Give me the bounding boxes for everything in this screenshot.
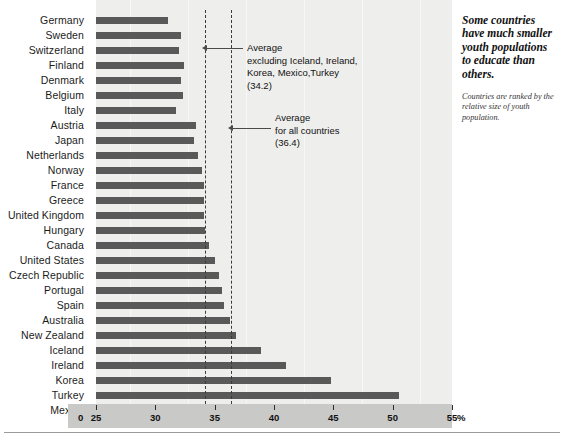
bar-row-label: United Kingdom xyxy=(0,208,84,223)
bar xyxy=(96,287,222,294)
bar xyxy=(96,152,198,159)
callout-average-excluding: Average excluding Iceland, Ireland, Kore… xyxy=(247,42,397,92)
bar xyxy=(96,62,184,69)
bar xyxy=(96,137,194,144)
bar-row-label: Denmark xyxy=(0,73,84,88)
bar-row: Germany xyxy=(0,13,452,28)
x-axis-tick xyxy=(274,405,275,410)
average-line-excluding xyxy=(205,10,206,404)
bar-row-label: Czech Republic xyxy=(0,268,84,283)
bar-row-label: France xyxy=(0,178,84,193)
bar-row-label: Japan xyxy=(0,133,84,148)
bar-row: Sweden xyxy=(0,28,452,43)
x-axis-tick-label: 35 xyxy=(209,412,220,423)
x-axis-tick-label: 50 xyxy=(387,412,398,423)
bar-row-label: Spain xyxy=(0,298,84,313)
bar-row-label: Switzerland xyxy=(0,43,84,58)
bar-row: United Kingdom xyxy=(0,208,452,223)
bar xyxy=(96,272,219,279)
bar-row: New Zealand xyxy=(0,328,452,343)
bar-row-label: Sweden xyxy=(0,28,84,43)
bar-row-label: New Zealand xyxy=(0,328,84,343)
bar-row: Czech Republic xyxy=(0,268,452,283)
x-axis-tick xyxy=(215,405,216,410)
bar xyxy=(96,107,176,114)
bar-row: Netherlands xyxy=(0,148,452,163)
callout-leader-excluding xyxy=(207,48,243,49)
bar-row-label: Norway xyxy=(0,163,84,178)
bar-row-label: Turkey xyxy=(0,388,84,403)
x-axis-tick xyxy=(393,405,394,410)
bar-row: France xyxy=(0,178,452,193)
bar xyxy=(96,182,204,189)
x-axis-tick xyxy=(96,405,97,410)
bar xyxy=(96,377,331,384)
x-axis-tick xyxy=(155,405,156,410)
bar xyxy=(96,167,202,174)
side-note-headline: Some countries have much smaller youth p… xyxy=(462,14,558,81)
bar-row: Turkey xyxy=(0,388,452,403)
bar-row: Iceland xyxy=(0,343,452,358)
bar xyxy=(96,392,399,399)
footer-rule xyxy=(4,432,560,433)
bar-row: Korea xyxy=(0,373,452,388)
bar-row: Greece xyxy=(0,193,452,208)
bar-row-label: Netherlands xyxy=(0,148,84,163)
bar xyxy=(96,332,236,339)
bar-row-label: Italy xyxy=(0,103,84,118)
bar xyxy=(96,242,209,249)
bar-row-label: Canada xyxy=(0,238,84,253)
bar-row-label: Hungary xyxy=(0,223,84,238)
chart-page: GermanySwedenSwitzerlandFinlandDenmarkBe… xyxy=(0,0,564,441)
x-axis-tick-label: 25 xyxy=(91,412,102,423)
x-axis-tick-label: 40 xyxy=(269,412,280,423)
x-axis-tick-label: 30 xyxy=(150,412,161,423)
bar-row-label: Belgium xyxy=(0,88,84,103)
side-note-subtext: Countries are ranked by the relative siz… xyxy=(462,92,558,123)
x-axis-tick-label: 55 xyxy=(447,412,458,423)
bar xyxy=(96,17,168,24)
x-axis-tick xyxy=(333,405,334,410)
bar-row-label: Portugal xyxy=(0,283,84,298)
x-axis-tick-label: 45 xyxy=(328,412,339,423)
bar xyxy=(96,362,286,369)
bar xyxy=(96,257,215,264)
x-axis-tick xyxy=(452,405,453,410)
average-line-all xyxy=(231,10,232,404)
bar-row: Ireland xyxy=(0,358,452,373)
bar-row: Spain xyxy=(0,298,452,313)
bar-row-label: United States xyxy=(0,253,84,268)
bar xyxy=(96,197,204,204)
bar-row-label: Austria xyxy=(0,118,84,133)
side-note: Some countries have much smaller youth p… xyxy=(462,14,558,123)
bar xyxy=(96,77,181,84)
x-axis-zero-label: 0 xyxy=(78,412,83,423)
bar-row: United States xyxy=(0,253,452,268)
bar-row: Hungary xyxy=(0,223,452,238)
bar-row-label: Greece xyxy=(0,193,84,208)
bar-row-label: Korea xyxy=(0,373,84,388)
bar xyxy=(96,317,230,324)
bar-row-label: Australia xyxy=(0,313,84,328)
bar-row-label: Finland xyxy=(0,58,84,73)
bar-row-label: Iceland xyxy=(0,343,84,358)
bar xyxy=(96,212,204,219)
bar xyxy=(96,92,183,99)
bar xyxy=(96,347,261,354)
callout-leader-all xyxy=(233,128,271,129)
bar-row: Portugal xyxy=(0,283,452,298)
bar xyxy=(96,227,205,234)
bar-row: Canada xyxy=(0,238,452,253)
bar-row-label: Ireland xyxy=(0,358,84,373)
bar xyxy=(96,32,181,39)
callout-average-all: Average for all countries (36.4) xyxy=(275,112,405,150)
bar-row: Norway xyxy=(0,163,452,178)
x-axis-unit-label: % xyxy=(457,412,465,423)
bar xyxy=(96,47,179,54)
bar-row-label: Germany xyxy=(0,13,84,28)
bar xyxy=(96,122,196,129)
bar-row: Australia xyxy=(0,313,452,328)
